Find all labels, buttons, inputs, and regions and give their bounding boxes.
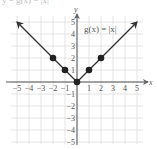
x-tick-label: −5 (13, 84, 22, 93)
cropped-heading-text: y = g(x) = |x| (2, 0, 49, 5)
y-tick-label: 2 (71, 54, 75, 63)
data-point (86, 67, 93, 74)
function-label: g(x) = |x| (84, 24, 117, 34)
function-graph: y = g(x) = |x| −5−4−3−2−11234554321−1−2−… (0, 0, 157, 149)
x-tick-label: −3 (37, 84, 46, 93)
y-tick-label: −4 (66, 126, 75, 135)
data-point (98, 55, 105, 62)
x-tick-label: −4 (25, 84, 34, 93)
data-point (62, 67, 69, 74)
y-tick-label: 5 (71, 18, 75, 27)
y-tick-label: 1 (71, 66, 75, 75)
y-tick-label: 4 (71, 30, 75, 39)
x-tick-label: 1 (87, 84, 91, 93)
y-tick-label: −1 (66, 90, 75, 99)
y-tick-label: −3 (66, 114, 75, 123)
x-tick-label: 5 (135, 84, 139, 93)
y-axis-label: y (73, 5, 78, 14)
x-tick-label: −2 (49, 84, 58, 93)
x-axis-label: x (148, 78, 153, 87)
x-tick-label: 4 (123, 84, 127, 93)
x-tick-label: 3 (111, 84, 115, 93)
data-point (74, 79, 81, 86)
y-tick-label: 3 (71, 42, 75, 51)
data-point (50, 55, 57, 62)
y-tick-label: −5 (66, 138, 75, 147)
line-left-branch (17, 22, 77, 82)
x-tick-label: 2 (99, 84, 103, 93)
y-tick-label: −2 (66, 102, 75, 111)
